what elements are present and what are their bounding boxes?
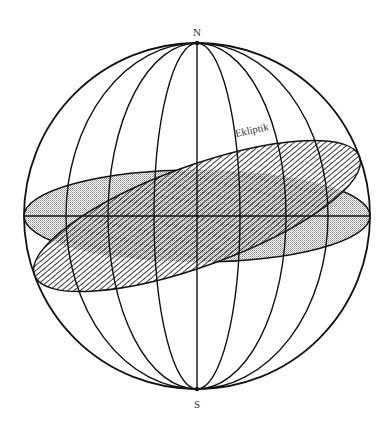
south-pole-dot [195, 387, 199, 391]
north-pole-dot [195, 41, 199, 45]
south-label: S [194, 398, 200, 410]
celestial-sphere-diagram: N S Ekliptik [0, 0, 392, 434]
ecliptic-label: Ekliptik [234, 121, 270, 139]
north-label: N [193, 26, 201, 38]
